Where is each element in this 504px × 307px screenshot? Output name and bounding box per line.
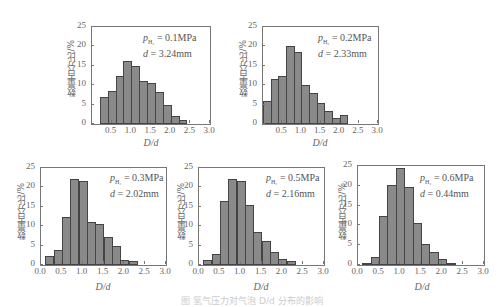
x-tick-label: 2.0 <box>431 266 451 276</box>
x-tick-mark <box>483 261 484 264</box>
y-tick-mark <box>357 165 360 166</box>
figure-caption: 图 氢气压力对气泡 D/d 分布的影响 <box>0 294 504 307</box>
x-tick-label: 3.0 <box>473 266 493 276</box>
y-tick-mark <box>357 244 360 245</box>
y-tick-mark <box>357 224 360 225</box>
y-tick-label: 10 <box>332 218 352 228</box>
x-tick-mark <box>462 261 463 264</box>
x-tick-mark <box>378 261 379 264</box>
x-tick-label: 0.0 <box>347 266 367 276</box>
x-tick-label: 1.0 <box>389 266 409 276</box>
x-tick-label: 2.5 <box>452 266 472 276</box>
x-axis-label: D/d <box>402 281 442 292</box>
x-tick-label: 0.5 <box>368 266 388 276</box>
x-tick-label: 1.5 <box>410 266 430 276</box>
y-axis-label: 数量百分比/% <box>335 183 348 240</box>
x-tick-mark <box>357 261 358 264</box>
x-tick-mark <box>441 261 442 264</box>
x-tick-mark <box>399 261 400 264</box>
y-tick-label: 20 <box>332 179 352 189</box>
annotation: pH₂ = 0.6MPa d = 0.44mm <box>420 172 473 200</box>
histogram-bar <box>446 263 455 265</box>
y-tick-mark <box>357 205 360 206</box>
y-tick-mark <box>357 264 360 265</box>
chart-panel-0.6mpa: 数量百分比/% pH₂ = 0.6MPa d = 0.44mm D/d 0510… <box>0 0 504 307</box>
y-tick-label: 15 <box>332 199 352 209</box>
pressure-value: = 0.6MPa <box>431 172 473 183</box>
x-tick-mark <box>420 261 421 264</box>
y-tick-label: 5 <box>332 238 352 248</box>
diameter-value: = 0.44mm <box>425 188 469 199</box>
y-tick-label: 25 <box>332 159 352 169</box>
y-tick-mark <box>357 185 360 186</box>
